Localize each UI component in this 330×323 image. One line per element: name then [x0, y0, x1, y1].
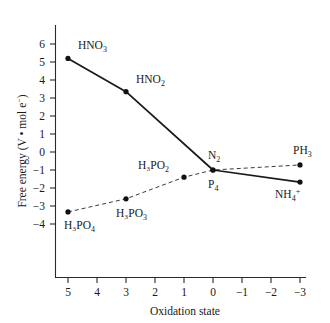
data-point-marker [297, 179, 302, 184]
data-point-marker [210, 167, 215, 172]
y-tick-3: 3 [39, 92, 55, 104]
y-tick-label: 6 [39, 38, 45, 50]
frost-diagram-svg: 6 5 4 3 2 1 0 −1 −2 −3 −4 [0, 0, 330, 323]
y-tick-0: 0 [39, 146, 55, 158]
x-tick-neg1: −1 [236, 278, 248, 299]
y-tick-neg3: −3 [33, 200, 56, 212]
species-label-subscript: 4 [91, 225, 95, 234]
data-point-marker [181, 175, 186, 180]
species-label-base: H₃PO [116, 207, 143, 219]
x-axis-title: Oxidation state [150, 305, 220, 317]
species-label-base: HNO [78, 39, 103, 51]
phosphorus-markers [65, 162, 302, 214]
species-label-subscript: 3 [103, 45, 107, 54]
species-label-n2: N2 [208, 149, 220, 164]
y-tick-label: −3 [33, 200, 45, 212]
y-tick-label: −2 [33, 182, 45, 194]
species-label-ph3: PH3 [293, 144, 312, 159]
data-point-marker [123, 89, 128, 94]
y-tick-neg1: −1 [33, 164, 56, 176]
axes-group [56, 26, 306, 278]
x-tick-label: 1 [181, 286, 187, 298]
y-axis-title: Free energy (V • mol e−) [15, 94, 29, 207]
x-tick-neg2: −2 [265, 278, 277, 299]
x-tick-neg3: −3 [294, 278, 306, 299]
species-label-hno2: HNO2 [136, 73, 165, 88]
y-tick-label: 1 [39, 128, 45, 140]
species-label-subscript: 3 [143, 213, 147, 222]
species-label-subscript: 2 [165, 165, 169, 174]
data-point-marker [297, 162, 302, 167]
y-tick-6: 6 [39, 38, 55, 50]
nitrogen-series-line [68, 58, 300, 182]
x-tick-5: 5 [65, 278, 71, 299]
data-point-marker [65, 209, 70, 214]
species-labels: HNO3HNO2N2NH4+H₃PO4H₃PO3H₃PO2P4PH3 [64, 39, 312, 234]
x-tick-label: 3 [123, 286, 129, 298]
species-label-base: NH [275, 188, 292, 200]
species-label-base: HNO [136, 73, 161, 85]
y-tick-label: −1 [33, 164, 45, 176]
x-tick-label: 0 [210, 286, 216, 298]
y-axis-title-group: Free energy (V • mol e−) [15, 94, 29, 207]
x-tick-label: 5 [65, 286, 71, 298]
y-tick-4: 4 [39, 74, 55, 86]
axis-lines [56, 26, 306, 278]
x-tick-2: 2 [152, 278, 158, 299]
y-tick-label: 0 [39, 146, 45, 158]
species-label-p4: P4 [208, 178, 218, 193]
series-layer [65, 56, 302, 215]
y-title-post: ) [16, 94, 29, 98]
y-axis-ticks: 6 5 4 3 2 1 0 −1 −2 −3 −4 [33, 38, 56, 230]
x-tick-0: 0 [210, 278, 216, 299]
y-tick-5: 5 [39, 56, 55, 68]
x-tick-label: −3 [294, 286, 306, 298]
species-label-nh4plus: NH4+ [275, 187, 301, 203]
species-label-subscript: 4 [214, 184, 218, 193]
y-tick-1: 1 [39, 128, 55, 140]
x-tick-label: 4 [94, 286, 100, 298]
y-tick-label: 5 [39, 56, 45, 68]
y-title-pre: Free energy (V [16, 136, 29, 208]
y-tick-neg4: −4 [33, 218, 56, 230]
frost-diagram-figure: 6 5 4 3 2 1 0 −1 −2 −3 −4 [0, 0, 330, 323]
y-tick-label: 2 [39, 110, 45, 122]
y-tick-label: −4 [33, 218, 45, 230]
data-point-marker [123, 196, 128, 201]
x-tick-label: −1 [236, 286, 248, 298]
species-label-subscript: 3 [308, 150, 312, 159]
species-label-subscript: 2 [216, 155, 220, 164]
x-tick-label: −2 [265, 286, 277, 298]
x-axis-ticks: 5 4 3 2 1 0 −1 −2 −3 [65, 278, 306, 299]
species-label-base: H₃PO [138, 159, 165, 171]
species-label-h3po2: H₃PO2 [138, 159, 169, 174]
species-label-hno3: HNO3 [78, 39, 107, 54]
nitrogen-markers [65, 56, 302, 185]
species-label-base: PH [293, 144, 308, 156]
y-tick-2: 2 [39, 110, 55, 122]
y-tick-label: 3 [39, 92, 45, 104]
species-label-superscript: + [296, 187, 301, 196]
species-label-h3po3: H₃PO3 [116, 207, 147, 222]
y-tick-label: 4 [39, 74, 45, 86]
x-tick-3: 3 [123, 278, 129, 299]
x-tick-1: 1 [181, 278, 187, 299]
species-label-base: H₃PO [64, 219, 91, 231]
y-title-mid: mol e [16, 103, 28, 132]
phosphorus-series-line [68, 165, 300, 212]
x-tick-label: 2 [152, 286, 158, 298]
data-point-marker [65, 56, 70, 61]
species-label-h3po4: H₃PO4 [64, 219, 95, 234]
species-label-subscript: 2 [161, 79, 165, 88]
y-tick-neg2: −2 [33, 182, 56, 194]
x-tick-4: 4 [94, 278, 100, 299]
